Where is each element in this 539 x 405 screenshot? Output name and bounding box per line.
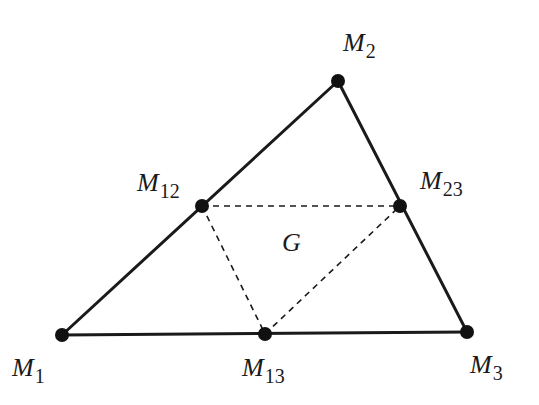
- centroid-label: G: [282, 230, 301, 256]
- vertex-points: [55, 74, 474, 342]
- label-M3: M3: [470, 352, 503, 378]
- label-subscript: 2: [366, 40, 376, 62]
- centroid-label-text: G: [282, 228, 301, 257]
- triangle-diagram: [0, 0, 539, 405]
- point-M12: [195, 199, 209, 213]
- point-M2: [331, 74, 345, 88]
- label-subscript: 13: [265, 365, 285, 387]
- point-M23: [393, 199, 407, 213]
- label-M13: M13: [242, 355, 285, 381]
- label-base: M: [137, 168, 159, 197]
- medial-triangle-sides: [202, 206, 400, 334]
- label-subscript: 23: [443, 178, 463, 200]
- label-base: M: [420, 166, 442, 195]
- label-base: M: [470, 350, 492, 379]
- label-base: M: [12, 353, 34, 382]
- dashed-M12-M13: [202, 206, 265, 334]
- label-M23: M23: [420, 168, 463, 194]
- point-M3: [460, 325, 474, 339]
- label-base: M: [242, 353, 264, 382]
- label-base: M: [343, 28, 365, 57]
- dashed-M13-M23: [265, 206, 400, 334]
- label-M2: M2: [343, 30, 376, 56]
- label-subscript: 3: [493, 362, 503, 384]
- point-M13: [258, 327, 272, 341]
- label-M1: M1: [12, 355, 45, 381]
- label-subscript: 1: [35, 365, 45, 387]
- label-M12: M12: [137, 170, 180, 196]
- point-M1: [55, 328, 69, 342]
- label-subscript: 12: [160, 180, 180, 202]
